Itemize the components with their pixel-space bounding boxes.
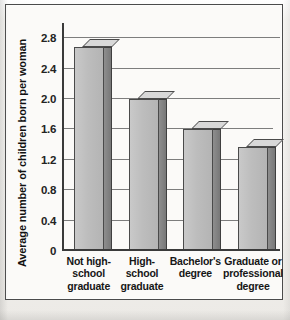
bar (129, 91, 167, 251)
x-tick-label-line: graduate (116, 280, 167, 292)
plot-area (62, 23, 280, 251)
x-tick-label: Graduate orprofessionaldegree (222, 255, 284, 303)
bar-side-face (159, 99, 167, 251)
y-tick-label: 2.0 (41, 93, 56, 105)
bar (183, 121, 221, 251)
y-tick-label: 0.4 (41, 215, 56, 227)
bar-side-face (104, 47, 112, 251)
x-tick-label-line: professional (223, 267, 283, 279)
x-tick-label: High-schoolgraduate (115, 255, 168, 303)
y-axis-line (62, 23, 64, 251)
x-tick-label-line: Bachelor's (170, 255, 221, 267)
bar-side-face (268, 147, 276, 251)
x-axis-category-labels: Not high-schoolgraduateHigh-schoolgradua… (62, 255, 284, 303)
y-tick-label: 1.2 (41, 154, 56, 166)
x-axis-line (62, 249, 280, 251)
x-tick-label-line: Graduate or (223, 255, 283, 267)
bar-front-face (238, 147, 268, 251)
x-tick-label-line: High- (116, 255, 167, 267)
chart-frame: Average number of children born per woma… (5, 4, 283, 300)
bar (238, 139, 276, 251)
bar (74, 39, 112, 251)
y-tick-label: 1.6 (41, 123, 56, 135)
bar-top-face (246, 139, 284, 147)
x-tick-label-line: degree (170, 267, 221, 279)
bar-front-face (74, 47, 104, 251)
x-tick-label: Not high-schoolgraduate (62, 255, 115, 303)
bar-front-face (129, 99, 159, 251)
y-tick-label: 2.4 (41, 63, 56, 75)
chart-page: Average number of children born per woma… (0, 0, 290, 320)
bar-side-face (213, 129, 221, 251)
x-tick-label-line: Not high- (63, 255, 114, 267)
y-tick-label: 0.8 (41, 184, 56, 196)
y-tick-label: 0 (50, 245, 56, 257)
x-tick-label-line: school (116, 267, 167, 279)
y-axis-tick-labels: 00.40.81.21.62.02.42.8 (6, 23, 60, 251)
x-tick-label-line: school (63, 267, 114, 279)
y-tick-label: 2.8 (41, 32, 56, 44)
bar-front-face (183, 129, 213, 251)
x-tick-label: Bachelor'sdegree (169, 255, 222, 303)
x-tick-label-line: degree (223, 280, 283, 292)
bar-top-face (82, 39, 120, 47)
x-tick-label-line: graduate (63, 280, 114, 292)
